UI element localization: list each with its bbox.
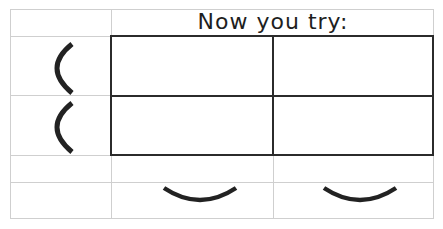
bottom-smile-arc-icon	[164, 188, 236, 200]
left-parenthesis-arc-icon	[57, 103, 72, 152]
left-parenthesis-arc-icon	[57, 44, 72, 93]
bottom-smile-arc-icon	[324, 188, 396, 200]
arc-shapes	[0, 0, 443, 229]
